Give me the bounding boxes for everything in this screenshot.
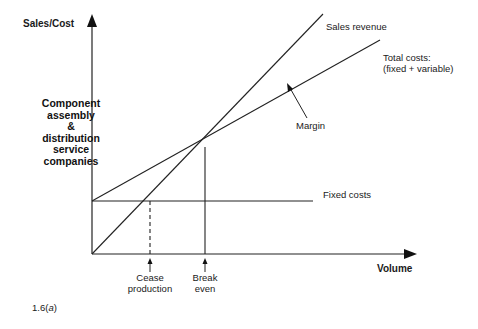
margin-arrow-shaft [290, 88, 307, 118]
total-costs-label-line1: Total costs: [383, 52, 431, 63]
side-label: Component assembly & distribution servic… [16, 98, 126, 167]
break-even-label: Break even [185, 272, 225, 294]
fixed-costs-label: Fixed costs [323, 189, 371, 200]
sales-revenue-label: Sales revenue [326, 21, 387, 32]
cease-arrow-icon [148, 258, 153, 264]
cease-production-label: Cease production [125, 272, 175, 294]
y-axis-arrow-icon [87, 14, 97, 27]
figure-caption: 1.6(a) [32, 302, 57, 313]
x-axis-label: Volume [377, 263, 412, 274]
margin-arrow-icon [287, 83, 293, 92]
break-arrow-icon [203, 258, 208, 264]
cease-label-line2: production [125, 283, 175, 294]
cease-label-line1: Cease [125, 272, 175, 283]
total-costs-label-line2: (fixed + variable) [383, 63, 454, 74]
side-label-line: Component [16, 98, 126, 110]
sales-revenue-line [92, 14, 323, 254]
break-label-line1: Break [185, 272, 225, 283]
break-label-line2: even [185, 283, 225, 294]
total-costs-line [92, 40, 380, 201]
side-label-line: service [16, 144, 126, 156]
x-axis-arrow-icon [404, 249, 417, 259]
side-label-line: & [16, 121, 126, 133]
y-axis-label: Sales/Cost [23, 18, 74, 29]
side-label-line: companies [16, 156, 126, 168]
margin-label: Margin [296, 120, 325, 131]
